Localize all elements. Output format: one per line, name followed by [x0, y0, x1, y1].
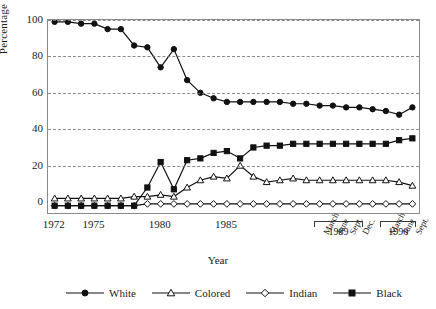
chart-container: Percentage 020406080100 1972197519801985…	[0, 0, 436, 309]
series-white	[52, 20, 415, 117]
gridline-40	[48, 129, 419, 130]
y-tick-label: 100	[13, 14, 43, 25]
legend-item-colored[interactable]: Colored	[151, 287, 230, 299]
gridline-80	[48, 56, 419, 57]
x-axis-title: Year	[0, 254, 436, 266]
legend-label: Indian	[289, 288, 317, 299]
legend-marker-filled-circle	[65, 287, 105, 299]
series-colored	[51, 162, 416, 201]
gridline-20	[48, 166, 419, 167]
y-tick-label: 40	[13, 123, 43, 134]
legend-label: White	[109, 288, 136, 299]
y-tick-label: 60	[13, 87, 43, 98]
chart-legend: WhiteColoredIndianBlack	[47, 283, 420, 303]
legend-item-indian[interactable]: Indian	[245, 287, 317, 299]
y-axis-ticks: 020406080100	[9, 19, 43, 214]
gridline-100	[48, 20, 419, 21]
legend-item-black[interactable]: Black	[332, 287, 402, 299]
y-axis-title: Percentage	[0, 0, 9, 74]
legend-item-white[interactable]: White	[65, 287, 136, 299]
y-tick-label: 80	[13, 50, 43, 61]
legend-marker-open-triangle	[151, 287, 191, 299]
series-layer	[48, 20, 419, 213]
gridline-60	[48, 93, 419, 94]
plot-area	[47, 19, 420, 214]
legend-marker-filled-square	[332, 287, 372, 299]
legend-label: Black	[376, 288, 402, 299]
legend-label: Colored	[195, 288, 230, 299]
y-tick-label: 0	[13, 196, 43, 207]
legend-marker-open-diamond	[245, 287, 285, 299]
y-tick-label: 20	[13, 160, 43, 171]
